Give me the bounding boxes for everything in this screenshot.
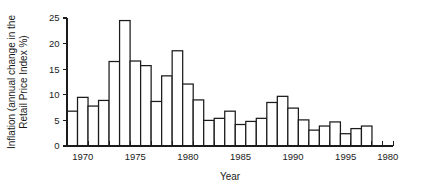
bar (151, 101, 162, 146)
bar (361, 126, 372, 146)
x-tick-labels-group: 1970197519801985199019951980 (72, 151, 398, 162)
bar (99, 100, 110, 146)
bar (130, 61, 141, 146)
x-tick-label: 1990 (283, 151, 304, 162)
bar (78, 97, 89, 146)
bar (88, 106, 99, 146)
x-tick-label: 1970 (72, 151, 93, 162)
y-tick-label: 25 (49, 12, 60, 23)
bar (109, 62, 120, 146)
y-axis-title: Inflation (annual change in theRetail Pr… (6, 15, 30, 149)
y-tick-label: 5 (54, 115, 59, 126)
bar (162, 76, 173, 146)
y-axis-title-line-2: Retail Price Index %) (18, 35, 29, 128)
bar (183, 84, 194, 146)
y-tick-label: 10 (49, 89, 60, 100)
bar (256, 118, 267, 146)
y-tick-label: 0 (54, 140, 59, 151)
chart-figure: 05101520251970197519801985199019951980Ye… (0, 0, 427, 193)
x-tick-label: 1980 (377, 151, 398, 162)
bar (204, 120, 215, 146)
bar (141, 66, 152, 146)
x-tick-label: 1980 (177, 151, 198, 162)
bar (235, 125, 246, 147)
bar (351, 129, 362, 146)
x-tick-label: 1985 (230, 151, 251, 162)
bar (319, 126, 330, 146)
bar (267, 102, 278, 146)
y-ticks-group: 0510152025 (49, 12, 67, 151)
y-axis-title-line-1: Inflation (annual change in the (6, 15, 17, 149)
bar (225, 111, 236, 146)
y-tick-label: 15 (49, 64, 60, 75)
bars-group (67, 21, 372, 146)
x-tick-label: 1975 (125, 151, 146, 162)
bar (67, 111, 78, 146)
bar (214, 118, 225, 146)
bar (120, 21, 131, 146)
bar (246, 121, 257, 146)
bar (309, 130, 320, 146)
bar (288, 108, 299, 146)
inflation-bar-chart: 05101520251970197519801985199019951980Ye… (0, 0, 427, 193)
x-axis-title: Year (220, 171, 241, 182)
y-tick-label: 20 (49, 38, 60, 49)
bar (330, 122, 341, 146)
bar (298, 120, 309, 146)
bar (172, 51, 183, 146)
x-tick-label: 1995 (335, 151, 356, 162)
bar (193, 100, 204, 146)
bar (340, 134, 351, 146)
bar (277, 96, 288, 146)
